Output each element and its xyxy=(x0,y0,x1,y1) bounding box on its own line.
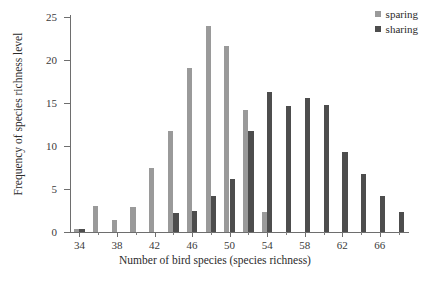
bar-sparing-54 xyxy=(262,212,267,232)
x-tick xyxy=(155,232,156,237)
bar-sparing-46 xyxy=(187,68,192,232)
x-tick-minor xyxy=(98,232,99,235)
bar-sharing-62 xyxy=(342,152,347,232)
legend-label-sparing: sparing xyxy=(386,8,418,20)
bar-sparing-36 xyxy=(93,206,98,232)
bar-sparing-44 xyxy=(168,131,173,232)
x-tick-minor xyxy=(173,232,174,235)
chart-legend: sparing sharing xyxy=(375,8,418,38)
bar-sharing-50 xyxy=(230,179,235,232)
x-tick-label: 62 xyxy=(330,239,354,251)
x-axis-line xyxy=(64,232,409,233)
x-tick xyxy=(230,232,231,237)
legend-item-sharing: sharing xyxy=(375,23,418,35)
bar-sparing-52 xyxy=(243,110,248,232)
x-tick xyxy=(192,232,193,237)
x-tick xyxy=(342,232,343,237)
x-tick-label: 38 xyxy=(105,239,129,251)
y-tick-label: 25 xyxy=(31,12,57,23)
y-tick-label: 5 xyxy=(31,184,57,195)
bar-sparing-38 xyxy=(112,220,117,232)
bar-sharing-64 xyxy=(361,174,366,232)
x-tick-label: 54 xyxy=(255,239,279,251)
legend-label-sharing: sharing xyxy=(386,23,418,35)
histogram-figure: Frequency of species richness level 0510… xyxy=(0,0,424,284)
y-tick-label: 0 xyxy=(31,227,57,238)
x-tick-minor xyxy=(211,232,212,235)
bar-sharing-48 xyxy=(211,196,216,232)
x-tick xyxy=(267,232,268,237)
bar-sharing-60 xyxy=(324,105,329,232)
bar-sharing-52 xyxy=(248,131,253,232)
bar-sparing-42 xyxy=(149,168,154,232)
y-tick-label-wrap: 15 xyxy=(0,98,64,109)
y-tick-label-wrap: 0 xyxy=(0,227,64,238)
x-tick xyxy=(117,232,118,237)
x-tick-label: 66 xyxy=(368,239,392,251)
x-tick-label: 42 xyxy=(143,239,167,251)
bars-container xyxy=(70,17,408,232)
x-tick xyxy=(380,232,381,237)
x-tick-label: 46 xyxy=(180,239,204,251)
x-tick-minor xyxy=(361,232,362,235)
bar-sharing-58 xyxy=(305,98,310,232)
x-tick-minor xyxy=(399,232,400,235)
bar-sparing-50 xyxy=(224,46,229,232)
legend-item-sparing: sparing xyxy=(375,8,418,20)
legend-swatch-sparing xyxy=(375,11,381,17)
y-tick-label-wrap: 25 xyxy=(0,12,64,23)
bar-sharing-44 xyxy=(173,213,178,232)
y-tick-label: 15 xyxy=(31,98,57,109)
x-tick xyxy=(79,232,80,237)
x-axis-title: Number of bird species (species richness… xyxy=(50,254,380,266)
x-tick-minor xyxy=(324,232,325,235)
y-tick-label-wrap: 20 xyxy=(0,55,64,66)
bar-sharing-56 xyxy=(286,106,291,232)
x-tick-label: 34 xyxy=(67,239,91,251)
bar-sparing-48 xyxy=(206,26,211,232)
bar-sparing-34 xyxy=(74,229,79,232)
bar-sharing-54 xyxy=(267,92,272,232)
x-tick-minor xyxy=(136,232,137,235)
bar-sharing-66 xyxy=(380,196,385,232)
y-tick-label-wrap: 5 xyxy=(0,184,64,195)
x-tick-label: 50 xyxy=(218,239,242,251)
bar-sharing-34 xyxy=(79,229,84,232)
x-tick-minor xyxy=(286,232,287,235)
y-tick-label: 20 xyxy=(31,55,57,66)
y-tick-label: 10 xyxy=(31,141,57,152)
bar-sparing-40 xyxy=(130,207,135,232)
bar-sharing-46 xyxy=(192,211,197,232)
legend-swatch-sharing xyxy=(375,26,381,32)
y-tick xyxy=(64,232,70,233)
y-tick-label-wrap: 10 xyxy=(0,141,64,152)
bar-sharing-68 xyxy=(399,212,404,232)
x-tick xyxy=(305,232,306,237)
x-tick-label: 58 xyxy=(293,239,317,251)
x-tick-minor xyxy=(248,232,249,235)
